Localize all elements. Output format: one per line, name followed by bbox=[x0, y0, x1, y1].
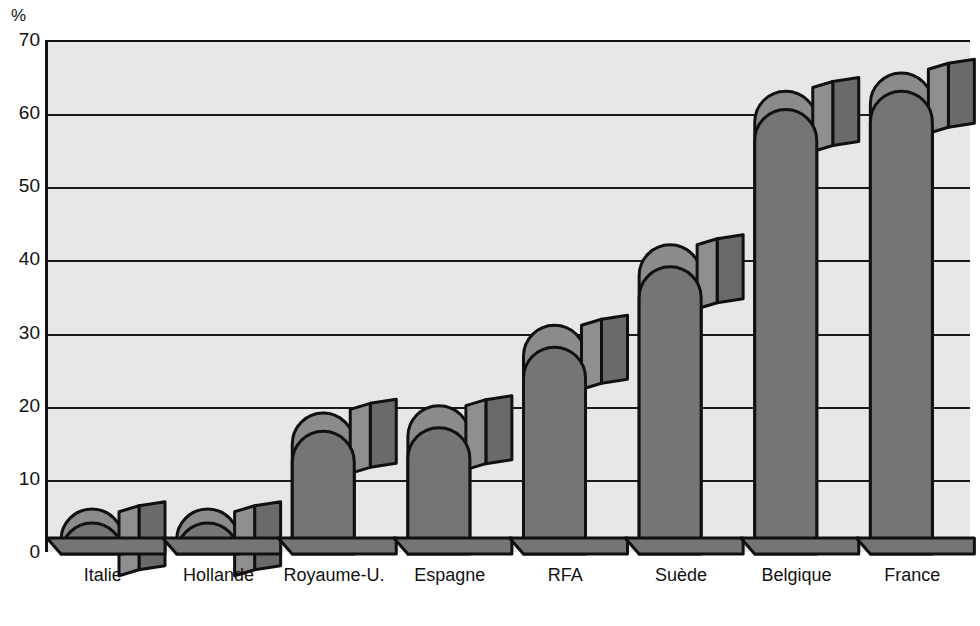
x-axis-label-royaume-u: Royaume-U. bbox=[284, 565, 385, 586]
y-axis-tick-0: 0 bbox=[2, 541, 40, 563]
y-axis-tick-50: 50 bbox=[2, 175, 40, 197]
gridline-30 bbox=[48, 334, 970, 336]
x-axis-label-france: France bbox=[884, 565, 940, 586]
y-axis-tick-40: 40 bbox=[2, 248, 40, 270]
gridline-10 bbox=[48, 480, 970, 482]
y-axis-tick-60: 60 bbox=[2, 102, 40, 124]
x-axis-label-espagne: Espagne bbox=[414, 565, 485, 586]
gridline-60 bbox=[48, 114, 970, 116]
gridline-20 bbox=[48, 407, 970, 409]
x-axis-label-italie: Italie bbox=[84, 565, 122, 586]
y-axis-tick-20: 20 bbox=[2, 395, 40, 417]
plot-area bbox=[45, 40, 970, 552]
gridline-40 bbox=[48, 260, 970, 262]
y-axis-tick-30: 30 bbox=[2, 322, 40, 344]
y-axis-tick-10: 10 bbox=[2, 468, 40, 490]
x-axis-label-rfa: RFA bbox=[548, 565, 583, 586]
y-axis-tick-70: 70 bbox=[2, 29, 40, 51]
gridline-50 bbox=[48, 187, 970, 189]
bar-chart: % 706050403020100 ItalieHollandeRoyaume-… bbox=[0, 0, 980, 626]
x-axis-label-su-de: Suède bbox=[655, 565, 707, 586]
x-axis-labels: ItalieHollandeRoyaume-U.EspagneRFASuèdeB… bbox=[45, 557, 970, 597]
y-axis-tick-labels: 706050403020100 bbox=[0, 0, 40, 626]
x-axis-label-hollande: Hollande bbox=[183, 565, 254, 586]
x-axis-label-belgique: Belgique bbox=[762, 565, 832, 586]
